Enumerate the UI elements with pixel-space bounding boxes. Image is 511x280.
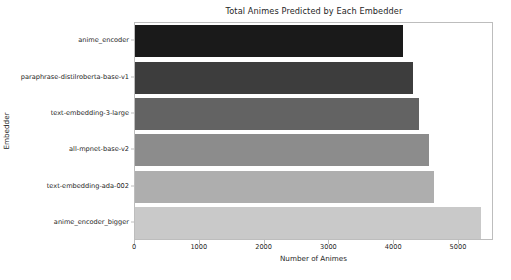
x-tick-label: 4000	[385, 243, 402, 251]
x-tick-label: 2000	[255, 243, 272, 251]
y-tick-label: anime_encoder	[78, 36, 129, 44]
y-tick-label: text-embedding-ada-002	[47, 182, 129, 190]
bar-fill	[135, 62, 413, 94]
y-axis-label: Embedder	[2, 112, 11, 149]
chart-title: Total Animes Predicted by Each Embedder	[134, 6, 494, 16]
bar-fill	[135, 98, 419, 130]
bar	[135, 134, 429, 166]
bar	[135, 171, 434, 203]
y-tick-label: text-embedding-3-large	[51, 109, 129, 117]
y-tick-label: anime_encoder_bigger	[54, 218, 129, 226]
chart-figure: Total Animes Predicted by Each Embedder …	[0, 0, 511, 280]
x-tick-label: 1000	[190, 243, 207, 251]
bar-fill	[135, 171, 434, 203]
bar-fill	[135, 207, 481, 239]
x-tick-label: 5000	[450, 243, 467, 251]
y-tick-label: paraphrase-distilroberta-base-v1	[21, 73, 129, 81]
y-tick-mark	[131, 185, 135, 186]
y-tick-mark	[131, 40, 135, 41]
x-axis-label: Number of Animes	[134, 254, 493, 263]
bar	[135, 25, 403, 57]
y-tick-mark	[131, 149, 135, 150]
bar	[135, 62, 413, 94]
bar-fill	[135, 25, 403, 57]
bar	[135, 98, 419, 130]
y-tick-label: all-mpnet-base-v2	[69, 145, 129, 153]
x-tick-label: 3000	[320, 243, 337, 251]
x-tick-label: 0	[132, 243, 136, 251]
y-tick-mark	[131, 112, 135, 113]
plot-area	[134, 22, 493, 240]
bar	[135, 207, 481, 239]
y-tick-mark	[131, 76, 135, 77]
y-tick-mark	[131, 221, 135, 222]
bar-fill	[135, 134, 429, 166]
